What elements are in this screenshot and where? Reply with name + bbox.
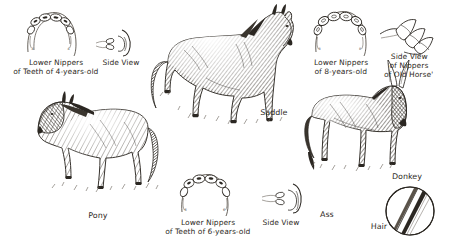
- illustration-plate: 4 4 Lower Nippers of Teeth of 4-years-ol…: [0, 0, 450, 240]
- svg-text:6: 6: [223, 208, 225, 212]
- caption-saddle: Saddle: [252, 108, 296, 117]
- svg-text:8: 8: [319, 47, 321, 51]
- caption-nippers-6-years: Lower Nippers of Teeth of 6-years-old: [160, 218, 257, 236]
- caption-pony: Pony: [76, 211, 120, 220]
- caption-ass: Ass: [313, 210, 341, 219]
- svg-text:4: 4: [32, 47, 34, 51]
- svg-text:4: 4: [68, 47, 70, 51]
- caption-nippers-8-years: Lower Nippers of 8-years-old: [302, 58, 381, 76]
- caption-side-view-old-horse: Side View of Nippers of Old Horse': [378, 52, 441, 80]
- caption-hair: Hair: [364, 222, 394, 231]
- svg-text:8: 8: [359, 47, 361, 51]
- caption-donkey: Donkey: [383, 172, 431, 181]
- caption-side-view-4-years: Side View: [90, 58, 152, 67]
- svg-text:6: 6: [185, 208, 187, 212]
- caption-side-view-6-years: Side View: [252, 218, 310, 227]
